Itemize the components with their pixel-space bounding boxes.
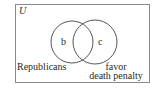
favor-death-penalty-circle [73,20,117,64]
favor-death-penalty-label-line-2: death penalty [88,71,144,80]
republicans-label: Republicans [17,62,66,72]
region-c-label: c [98,37,102,47]
universe-label: U [19,6,26,16]
region-b-label: b [61,37,66,47]
republicans-circle [51,21,93,63]
favor-death-penalty-label: favor death penalty [88,62,144,80]
venn-diagram: U b c Republicans favor death penalty [0,0,161,90]
